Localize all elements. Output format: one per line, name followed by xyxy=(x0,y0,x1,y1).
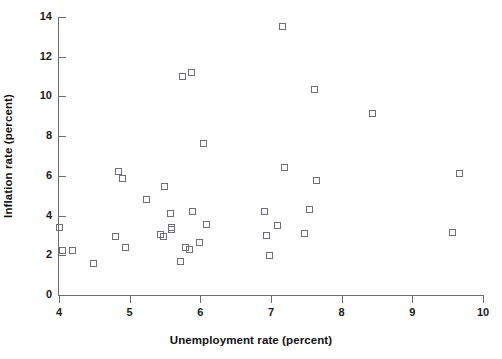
x-tick-mark xyxy=(412,296,413,303)
y-tick-label: 4 xyxy=(30,210,52,221)
x-tick-label: 4 xyxy=(44,307,74,318)
data-point xyxy=(301,230,308,237)
data-point xyxy=(122,244,129,251)
data-point xyxy=(313,177,320,184)
y-axis-label: Inflation rate (percent) xyxy=(2,17,18,295)
x-tick-label: 5 xyxy=(115,307,145,318)
data-point xyxy=(115,168,122,175)
data-point xyxy=(188,69,195,76)
data-point xyxy=(369,110,376,117)
y-tick-label: 2 xyxy=(30,249,52,260)
data-point xyxy=(161,183,168,190)
x-tick-label: 8 xyxy=(327,307,357,318)
x-tick-mark xyxy=(271,296,272,303)
y-tick-label: 8 xyxy=(30,130,52,141)
x-tick-label: 7 xyxy=(256,307,286,318)
data-point xyxy=(119,175,126,182)
data-point xyxy=(203,221,210,228)
y-tick-label: 10 xyxy=(30,90,52,101)
data-point xyxy=(168,226,175,233)
x-tick-mark xyxy=(59,296,60,303)
data-point xyxy=(177,258,184,265)
x-tick-mark xyxy=(130,296,131,303)
y-tick-mark xyxy=(59,295,66,296)
data-point xyxy=(143,196,150,203)
x-tick-label: 6 xyxy=(185,307,215,318)
data-point xyxy=(56,224,63,231)
data-point xyxy=(311,86,318,93)
data-point xyxy=(196,239,203,246)
x-tick-mark xyxy=(342,296,343,303)
x-tick-label: 9 xyxy=(397,307,427,318)
data-point xyxy=(112,233,119,240)
x-tick-mark xyxy=(483,296,484,303)
scatter-chart: 02468101214 45678910 Inflation rate (per… xyxy=(0,0,502,359)
data-point xyxy=(200,140,207,147)
data-point xyxy=(306,206,313,213)
data-point xyxy=(69,247,76,254)
data-point xyxy=(456,170,463,177)
y-tick-label: 0 xyxy=(30,289,52,300)
data-point xyxy=(449,229,456,236)
data-point xyxy=(186,246,193,253)
data-point xyxy=(263,232,270,239)
data-point xyxy=(167,210,174,217)
x-tick-mark xyxy=(200,296,201,303)
y-tick-label: 6 xyxy=(30,170,52,181)
data-point xyxy=(279,23,286,30)
data-point xyxy=(59,247,66,254)
x-axis-label: Unemployment rate (percent) xyxy=(0,334,502,346)
data-point xyxy=(160,233,167,240)
data-point xyxy=(281,164,288,171)
data-point xyxy=(90,260,97,267)
data-point xyxy=(274,222,281,229)
x-tick-label: 10 xyxy=(468,307,498,318)
data-point xyxy=(266,252,273,259)
data-point xyxy=(261,208,268,215)
y-tick-label: 12 xyxy=(30,51,52,62)
y-tick-label: 14 xyxy=(30,11,52,22)
data-point xyxy=(189,208,196,215)
data-point xyxy=(179,73,186,80)
